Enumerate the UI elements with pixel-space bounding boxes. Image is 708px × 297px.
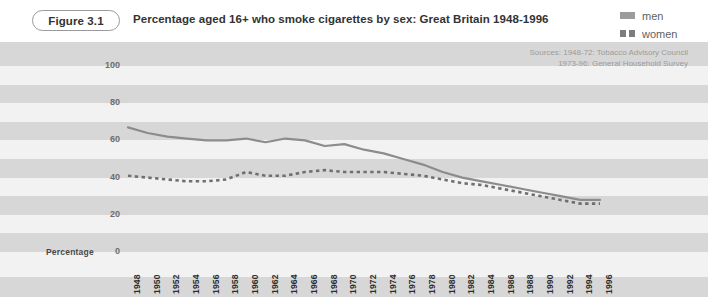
figure-number-badge: Figure 3.1 xyxy=(32,10,120,31)
figure-number-label: Figure 3.1 xyxy=(48,15,103,27)
x-axis-tick-label: 1972 xyxy=(368,274,378,294)
x-axis-tick-label: 1988 xyxy=(525,274,535,294)
chart-sources: Sources: 1948-72: Tobacco Advisory Counc… xyxy=(529,48,688,69)
x-axis-tick-label: 1976 xyxy=(407,274,417,294)
x-axis-tick-label: 1962 xyxy=(270,274,280,294)
x-axis-tick-label: 1978 xyxy=(427,274,437,294)
legend-item-women: women xyxy=(620,26,700,41)
legend-label-women: women xyxy=(642,28,677,40)
chart-plot-background xyxy=(0,42,708,277)
x-axis-tick-label: 1996 xyxy=(604,274,614,294)
x-axis-tick-label: 1952 xyxy=(171,274,181,294)
x-axis-tick-label: 1960 xyxy=(250,274,260,294)
x-axis-tick-label: 1982 xyxy=(466,274,476,294)
legend-swatch-men-icon xyxy=(620,12,635,19)
x-axis-ticks: 1948195019521954195619581960196219641966… xyxy=(0,252,708,297)
x-axis-tick-label: 1986 xyxy=(506,274,516,294)
legend-swatch-women-icon xyxy=(620,30,635,37)
chart-header: Figure 3.1 Percentage aged 16+ who smoke… xyxy=(0,0,708,42)
x-axis-tick-label: 1954 xyxy=(191,274,201,294)
legend-item-men: men xyxy=(620,8,700,23)
y-axis-tick-label: 20 xyxy=(86,209,120,219)
x-axis-tick-label: 1974 xyxy=(388,274,398,294)
x-axis-tick-label: 1966 xyxy=(309,274,319,294)
source-line-1: Sources: 1948-72: Tobacco Advisory Counc… xyxy=(529,48,688,59)
y-axis-tick-label: 60 xyxy=(86,134,120,144)
y-axis-tick-label: 40 xyxy=(86,172,120,182)
x-axis-tick-label: 1984 xyxy=(486,274,496,294)
x-axis-tick-label: 1964 xyxy=(289,274,299,294)
source-line-2: 1973-96: General Household Survey xyxy=(529,59,688,70)
legend-label-men: men xyxy=(642,10,663,22)
x-axis-tick-label: 1990 xyxy=(545,274,555,294)
page-title: Percentage aged 16+ who smoke cigarettes… xyxy=(133,13,549,25)
x-axis-tick-label: 1970 xyxy=(348,274,358,294)
x-axis-tick-label: 1980 xyxy=(447,274,457,294)
x-axis-tick-label: 1956 xyxy=(211,274,221,294)
y-axis-tick-label: 80 xyxy=(86,97,120,107)
y-axis-tick-label: 100 xyxy=(86,60,120,70)
x-axis-tick-label: 1958 xyxy=(230,274,240,294)
x-axis-tick-label: 1950 xyxy=(152,274,162,294)
x-axis-tick-label: 1968 xyxy=(329,274,339,294)
chart-legend: men women xyxy=(620,8,700,44)
x-axis-tick-label: 1994 xyxy=(584,274,594,294)
x-axis-tick-label: 1948 xyxy=(132,274,142,294)
x-axis-tick-label: 1992 xyxy=(565,274,575,294)
